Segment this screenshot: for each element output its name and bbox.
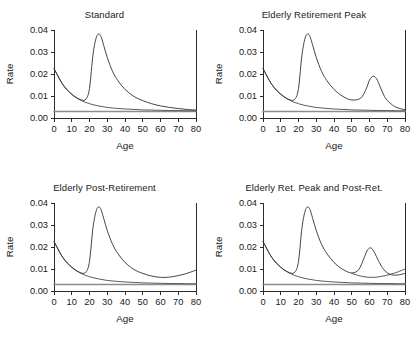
plot-area: 0.000.010.020.030.0401020304050607080Age… [0,22,209,173]
y-axis-label: Rate [4,63,15,84]
panel-title: Elderly Ret. Peak and Post-Ret. [209,182,419,193]
x-tick-label: 80 [400,124,410,134]
x-tick-label: 60 [155,297,165,307]
y-tick-label: 0.00 [30,113,48,123]
y-tick-label: 0.01 [30,264,48,274]
y-tick-label: 0.03 [239,47,257,57]
y-tick-label: 0.04 [30,25,48,35]
curve-composite [54,34,196,110]
migration-schedule-figure: Standard 0.000.010.020.030.0401020304050… [0,0,419,346]
y-tick-label: 0.03 [30,47,48,57]
plot-area: 0.000.010.020.030.0401020304050607080Age… [0,195,209,346]
curve-composite [54,207,196,278]
x-tick-label: 0 [260,124,265,134]
x-tick-label: 0 [51,297,56,307]
x-tick-label: 50 [138,297,148,307]
y-tick-label: 0.02 [30,69,48,79]
x-tick-label: 20 [293,297,303,307]
x-tick-label: 60 [364,297,374,307]
y-axis-label: Rate [213,236,224,257]
y-tick-label: 0.00 [239,286,257,296]
x-tick-label: 40 [120,124,130,134]
y-tick-label: 0.00 [30,286,48,296]
x-tick-label: 30 [102,297,112,307]
x-tick-label: 50 [138,124,148,134]
x-tick-label: 10 [276,124,286,134]
panel-title: Standard [0,9,209,20]
panel-elderly-retirement-peak: Elderly Retirement Peak 0.000.010.020.03… [209,0,419,173]
x-tick-label: 0 [51,124,56,134]
x-tick-label: 70 [173,124,183,134]
x-tick-label: 80 [191,124,201,134]
x-tick-label: 60 [155,124,165,134]
x-axis-label: Age [325,313,343,324]
panel-title: Elderly Post-Retirement [0,182,209,193]
x-tick-label: 10 [67,124,77,134]
x-tick-label: 40 [329,297,339,307]
y-tick-label: 0.02 [30,242,48,252]
y-tick-label: 0.00 [239,113,257,123]
panel-standard: Standard 0.000.010.020.030.0401020304050… [0,0,209,173]
x-tick-label: 30 [311,124,321,134]
y-tick-label: 0.04 [30,198,48,208]
x-tick-label: 40 [329,124,339,134]
y-tick-label: 0.01 [239,91,257,101]
y-tick-label: 0.01 [30,91,48,101]
curve-composite [263,207,405,275]
x-axis-label: Age [116,313,134,324]
x-tick-label: 10 [276,297,286,307]
x-tick-label: 60 [364,124,374,134]
x-tick-label: 70 [382,297,392,307]
x-tick-label: 80 [191,297,201,307]
curve-composite [263,34,405,110]
x-tick-label: 20 [84,124,94,134]
x-tick-label: 40 [120,297,130,307]
curve-post-retirement-only [352,269,405,277]
x-tick-label: 50 [347,124,357,134]
panel-elderly-peak-and-post-retirement: Elderly Ret. Peak and Post-Ret. 0.000.01… [209,173,419,346]
y-tick-label: 0.02 [239,242,257,252]
x-tick-label: 50 [347,297,357,307]
y-tick-label: 0.03 [30,220,48,230]
x-axis-label: Age [325,140,343,151]
y-tick-label: 0.01 [239,264,257,274]
x-tick-label: 20 [84,297,94,307]
panel-elderly-post-retirement: Elderly Post-Retirement 0.000.010.020.03… [0,173,209,346]
x-tick-label: 30 [311,297,321,307]
x-tick-label: 80 [400,297,410,307]
x-axis-label: Age [116,140,134,151]
panel-title: Elderly Retirement Peak [209,9,419,20]
y-tick-label: 0.03 [239,220,257,230]
y-tick-label: 0.02 [239,69,257,79]
plot-area: 0.000.010.020.030.0401020304050607080Age… [209,195,419,346]
y-axis-label: Rate [4,236,15,257]
x-tick-label: 10 [67,297,77,307]
y-tick-label: 0.04 [239,25,257,35]
x-tick-label: 30 [102,124,112,134]
x-tick-label: 20 [293,124,303,134]
x-tick-label: 70 [382,124,392,134]
x-tick-label: 70 [173,297,183,307]
plot-area: 0.000.010.020.030.0401020304050607080Age… [209,22,419,173]
y-axis-label: Rate [213,63,224,84]
x-tick-label: 0 [260,297,265,307]
y-tick-label: 0.04 [239,198,257,208]
